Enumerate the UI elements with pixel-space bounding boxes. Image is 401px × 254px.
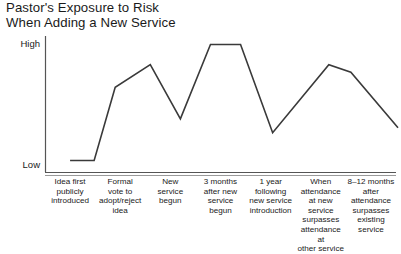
x-axis-tick-label: New service begun (145, 177, 195, 206)
x-axis-tick-label: Idea first publicly introduced (45, 177, 95, 206)
x-axis-tick-label: 3 months after new service begun (195, 177, 245, 215)
x-axis-tick-label: 8–12 months after attendance surpasses e… (346, 177, 396, 235)
x-axis-tick-label: When attendance at new service surpasses… (296, 177, 346, 254)
x-axis-tick-label: 1 year following new service introductio… (246, 177, 296, 215)
x-axis-tick-label: Formal vote to adopt/reject idea (95, 177, 145, 215)
x-axis-label-row: Idea first publicly introducedFormal vot… (45, 177, 396, 239)
risk-exposure-line (70, 45, 398, 161)
